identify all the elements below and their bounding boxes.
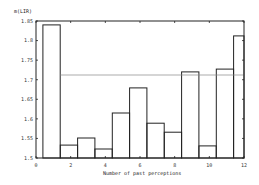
bar	[43, 25, 60, 158]
bar	[95, 149, 112, 158]
y-tick-label: 1.8	[24, 37, 33, 43]
y-tick-label: 1.65	[21, 96, 33, 102]
plot-frame	[36, 21, 244, 158]
y-tick-label: 1.75	[21, 57, 33, 63]
bar	[60, 145, 77, 158]
x-tick-label: 2	[69, 162, 72, 168]
bar	[78, 138, 95, 158]
bar-chart: m(LIR) 1.51.551.61.651.71.751.81.85 0246…	[0, 0, 259, 185]
y-tick-label: 1.6	[24, 116, 33, 122]
y-axis-ticks: 1.51.551.61.651.71.751.81.85	[21, 18, 244, 161]
bar	[112, 113, 129, 158]
y-axis-label: m(LIR)	[14, 8, 32, 14]
bar	[164, 132, 181, 158]
y-tick-label: 1.7	[24, 77, 33, 83]
y-tick-label: 1.5	[24, 155, 33, 161]
x-tick-label: 10	[206, 162, 212, 168]
x-tick-label: 6	[138, 162, 141, 168]
x-tick-label: 12	[241, 162, 247, 168]
x-axis-label: Number of past perceptions	[103, 170, 181, 177]
x-tick-label: 0	[34, 162, 37, 168]
x-tick-label: 8	[173, 162, 176, 168]
bar	[234, 36, 244, 158]
x-tick-label: 4	[104, 162, 107, 168]
bar	[147, 123, 164, 158]
bars	[43, 25, 244, 158]
bar	[182, 72, 199, 158]
y-tick-label: 1.85	[21, 18, 33, 24]
y-tick-label: 1.55	[21, 135, 33, 141]
bar	[130, 88, 147, 158]
bar	[216, 69, 233, 158]
bar	[199, 146, 216, 158]
